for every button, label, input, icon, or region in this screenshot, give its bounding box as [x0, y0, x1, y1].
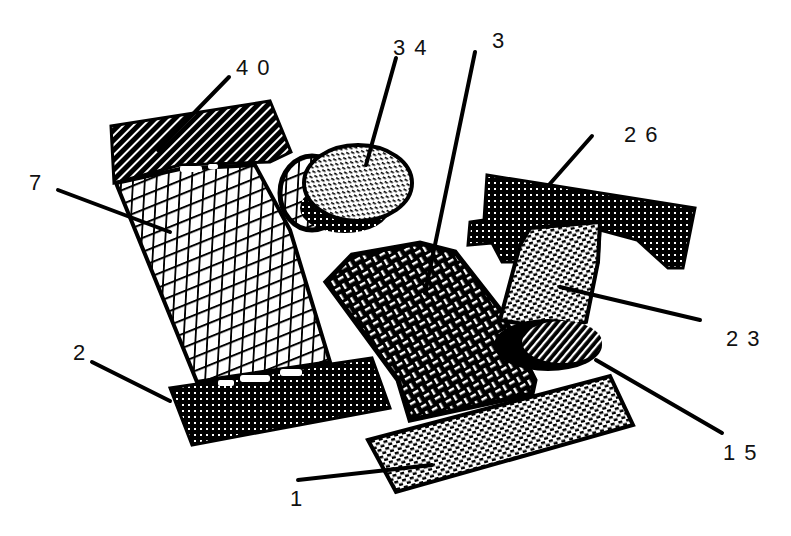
label-26: 26 [624, 124, 666, 146]
label-34: 34 [393, 37, 435, 59]
label-3: 3 [492, 30, 513, 52]
label-40: 40 [236, 57, 278, 79]
patent-figure [0, 0, 791, 536]
label-15: 15 [723, 442, 765, 464]
label-23: 23 [726, 328, 768, 350]
leader-2 [92, 362, 170, 401]
leader-26 [548, 136, 592, 186]
label-7: 7 [29, 172, 50, 194]
label-1: 1 [290, 488, 311, 510]
part-15-oval [494, 319, 602, 371]
label-2: 2 [73, 342, 94, 364]
part-34-disk [280, 145, 412, 233]
